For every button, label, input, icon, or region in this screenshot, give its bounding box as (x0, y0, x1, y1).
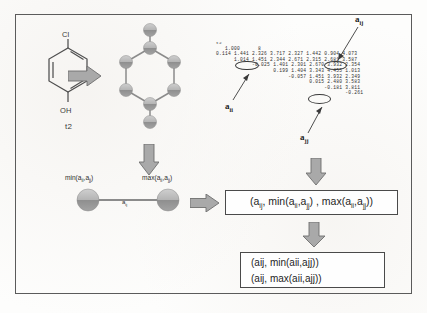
arrow-tuple-to-final (303, 222, 325, 248)
arrow-matrix-to-tuple (306, 158, 326, 186)
label-ajj: ajj (300, 132, 309, 144)
arrow-structure-to-graph (68, 66, 102, 86)
label-min-pair: min(aii,ajj) (65, 174, 93, 183)
final-pair-max: (aij, max(aii,ajj)) (251, 271, 322, 286)
substituent-label-oh: OH (60, 106, 72, 115)
matrix-header: 1.000 8 (216, 46, 261, 51)
substituent-label-cl: Cl (62, 30, 69, 39)
final-pairs-box: (aij, min(aii,ajj)) (aij, max(aii,ajj)) (240, 252, 385, 288)
label-max-pair: max(aii,ajj) (142, 174, 172, 183)
pointer-line-aii (231, 72, 253, 106)
structure-caption: t2 (65, 122, 72, 131)
label-bond-aij: aij (122, 199, 127, 207)
pointer-line-aij (334, 26, 360, 66)
label-aij: aij (355, 14, 363, 26)
tuple-expression-box: (aij, min(aii,ajj) , max(aii,ajj)) (225, 190, 398, 215)
label-aii: aii (225, 101, 233, 113)
pointer-line-ajj (306, 105, 328, 139)
molecular-graph (104, 22, 196, 140)
highlight-ellipse-ajj (308, 94, 331, 104)
final-pair-min: (aij, min(aii,ajj)) (251, 255, 319, 270)
arrow-pair-to-tuple (190, 194, 220, 212)
highlight-ellipse-aii (235, 61, 259, 71)
atom-pair: min(aii,ajj) max(aii,ajj) aij (74, 186, 184, 216)
arrow-graph-to-pair (139, 144, 159, 176)
tuple-expression-text: (aij, min(aii,ajj) , max(aii,ajj)) (250, 195, 373, 209)
